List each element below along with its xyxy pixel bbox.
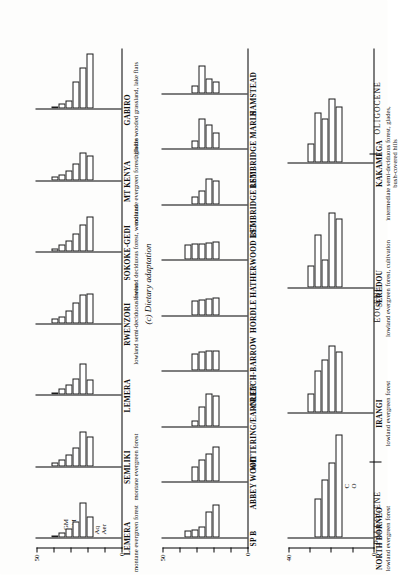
bar-f bbox=[335, 434, 342, 537]
bar-group bbox=[177, 65, 219, 92]
bar-arb bbox=[72, 521, 79, 537]
bar-som bbox=[65, 170, 72, 180]
legend-item-o: O bbox=[350, 478, 358, 488]
bar-lgm bbox=[86, 436, 93, 466]
bar-arb bbox=[198, 299, 205, 315]
bar-f bbox=[335, 107, 342, 163]
bar-aer bbox=[51, 318, 58, 323]
chart-row-2: 0 50 (c) Dietary adaptation SP BABBEY WO… bbox=[130, 0, 248, 574]
bar-o bbox=[307, 265, 314, 287]
panel-habitat-label: lowland evergreen forest bbox=[383, 478, 390, 579]
bar-som bbox=[65, 384, 72, 394]
bar-aer bbox=[51, 106, 58, 108]
bar-sgm bbox=[79, 67, 86, 108]
bar-sgm bbox=[205, 298, 212, 315]
bar-arb bbox=[72, 163, 79, 180]
bar-hb bbox=[328, 98, 335, 162]
bar-som bbox=[65, 310, 72, 323]
bar-aq bbox=[58, 532, 65, 537]
bar-som bbox=[191, 140, 198, 148]
epoch-divider-2 bbox=[369, 153, 381, 154]
bar-group bbox=[177, 504, 219, 537]
bar-aq bbox=[58, 388, 65, 394]
bar-arb bbox=[198, 243, 205, 260]
row1-y-axis bbox=[36, 547, 122, 548]
bar-c bbox=[314, 234, 321, 287]
bar-arb bbox=[198, 190, 205, 203]
bar-sgm bbox=[205, 242, 212, 260]
bar-lgm bbox=[212, 241, 219, 259]
bar-aq bbox=[58, 316, 65, 323]
panel-habitat-label: intermediate semi-deciduous forest, glad… bbox=[383, 103, 398, 223]
bar-lgm bbox=[86, 216, 93, 252]
row2-y-axis bbox=[162, 547, 248, 548]
bar-som bbox=[191, 353, 198, 371]
bar-sgm bbox=[79, 363, 86, 394]
bar-hg bbox=[321, 359, 328, 412]
bar-sgm bbox=[205, 511, 212, 537]
bar-sgm bbox=[79, 294, 86, 323]
chart-row-3: 0 40 F HB HG C O NORTH BORNEOlowland eve… bbox=[256, 0, 374, 574]
bar-sgm bbox=[79, 431, 86, 466]
bar-lgm bbox=[212, 504, 219, 537]
bar-sgm bbox=[205, 78, 212, 92]
bar-arb bbox=[198, 526, 205, 537]
bar-som bbox=[191, 85, 198, 93]
panel-habitat-label: lowland evergreen forest, cultivation bbox=[383, 228, 390, 348]
bar-sgm bbox=[79, 503, 86, 538]
bar-group bbox=[177, 446, 219, 482]
bar-sgm bbox=[205, 350, 212, 370]
bar-group bbox=[177, 350, 219, 371]
bar-lgm bbox=[212, 180, 219, 204]
bar-sgm bbox=[205, 178, 212, 204]
bar-group bbox=[177, 178, 219, 204]
bar-sgm bbox=[79, 224, 86, 252]
bar-arb bbox=[198, 351, 205, 370]
figure-caption: (c) Dietary adaptation bbox=[142, 243, 152, 324]
bar-lgm bbox=[212, 395, 219, 426]
bar-arb bbox=[198, 118, 205, 148]
bar-aq bbox=[58, 244, 65, 251]
row1-axis-label-max: 50 bbox=[33, 554, 40, 574]
bar-lgm bbox=[212, 81, 219, 93]
bar-group bbox=[51, 503, 93, 538]
bar-hb bbox=[328, 212, 335, 287]
bar-hg bbox=[321, 259, 328, 287]
bar-group bbox=[51, 216, 93, 252]
epoch-label-paleocene: PALEOCENE bbox=[372, 491, 381, 545]
row2-axis-label-max: 50 bbox=[159, 554, 166, 574]
bar-group bbox=[51, 293, 93, 323]
bar-c bbox=[314, 370, 321, 412]
bar-som bbox=[191, 420, 198, 426]
bar-arb bbox=[72, 447, 79, 465]
bar-hb bbox=[328, 462, 335, 537]
bar-hg bbox=[321, 479, 328, 537]
chart-row-1: 0 50 LGM SGM Arb Som Aq Aer LEMERAmontan… bbox=[4, 0, 122, 574]
bar-som bbox=[65, 528, 72, 537]
panel-habitat-label: lowland evergreen forest bbox=[383, 353, 390, 473]
bar-group bbox=[307, 434, 342, 537]
bar-lgm bbox=[212, 350, 219, 371]
bar-arb bbox=[72, 378, 79, 394]
bar-aer bbox=[51, 248, 58, 251]
bar-group bbox=[307, 98, 342, 162]
bar-aq bbox=[58, 174, 65, 180]
bar-arb bbox=[198, 406, 205, 426]
row3-axis-label-max: 40 bbox=[285, 554, 292, 574]
epoch-label-oligocene: OLIGOCENE bbox=[372, 81, 381, 134]
bar-aq bbox=[58, 459, 65, 466]
bar-arb bbox=[72, 233, 79, 251]
bar-arb bbox=[72, 302, 79, 323]
bar-arb bbox=[198, 459, 205, 481]
bar-aq bbox=[58, 103, 65, 109]
bar-aer bbox=[51, 462, 58, 465]
bar-som bbox=[191, 466, 198, 482]
bar-lgm bbox=[86, 293, 93, 323]
bar-group bbox=[51, 431, 93, 466]
bar-group bbox=[51, 152, 93, 180]
bar-aq bbox=[184, 244, 191, 259]
bar-som bbox=[65, 240, 72, 252]
bar-f bbox=[335, 218, 342, 287]
